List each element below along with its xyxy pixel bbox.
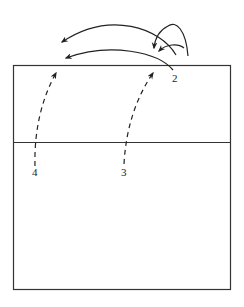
dashed-arrow-3-icon	[124, 73, 153, 164]
point-label-3: 3	[121, 166, 127, 178]
folding-diagram: 2 3 4	[0, 0, 244, 307]
point-label-2: 2	[172, 72, 178, 84]
lower-long-arc-arrow-icon	[66, 50, 173, 70]
loop-arrow-a-icon	[154, 24, 188, 56]
point-label-4: 4	[32, 166, 38, 178]
dashed-arrow-4-icon	[35, 73, 56, 166]
